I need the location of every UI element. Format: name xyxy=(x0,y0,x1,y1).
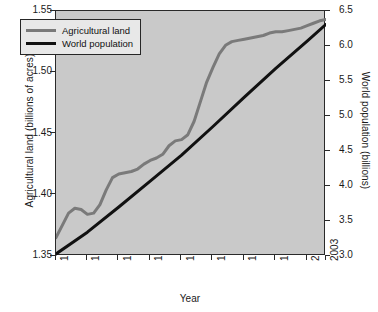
y-right-tick-mark xyxy=(325,255,330,256)
y-left-tick-mark xyxy=(50,71,55,72)
y-right-tick-label: 5.0 xyxy=(339,109,369,120)
y-left-tick-mark xyxy=(50,10,55,11)
legend-label-agricultural-land: Agricultural land xyxy=(62,25,130,36)
y-right-tick-mark xyxy=(325,115,330,116)
legend-item-agricultural-land: Agricultural land xyxy=(26,24,133,37)
x-tick-mark xyxy=(149,255,150,260)
y-right-tick-label: 4.0 xyxy=(339,179,369,190)
x-tick-mark xyxy=(306,255,307,260)
legend-item-world-population: World population xyxy=(26,37,133,50)
y-axis-right-ticks: 3.03.54.04.55.05.56.06.5 xyxy=(329,0,363,312)
y-left-tick-label: 1.55 xyxy=(22,4,52,15)
series-line-world-population xyxy=(56,24,326,254)
chart-figure: Agricultural land (billions of acres) Wo… xyxy=(0,0,378,312)
legend-label-world-population: World population xyxy=(62,38,133,49)
legend-swatch-agricultural-land xyxy=(26,29,56,32)
y-right-tick-mark xyxy=(325,150,330,151)
legend-swatch-world-population xyxy=(26,42,56,45)
x-axis-title: Year xyxy=(55,293,325,304)
y-right-tick-mark xyxy=(325,185,330,186)
x-tick-mark xyxy=(86,255,87,260)
y-right-tick-mark xyxy=(325,45,330,46)
x-tick-mark xyxy=(211,255,212,260)
y-right-tick-label: 3.5 xyxy=(339,214,369,225)
y-left-tick-mark xyxy=(50,193,55,194)
y-right-tick-label: 6.0 xyxy=(339,39,369,50)
x-tick-mark xyxy=(180,255,181,260)
y-right-tick-label: 3.0 xyxy=(339,249,369,260)
y-right-tick-mark xyxy=(325,80,330,81)
y-left-tick-label: 1.45 xyxy=(22,127,52,138)
x-tick-mark xyxy=(274,255,275,260)
y-right-tick-mark xyxy=(325,10,330,11)
y-left-tick-mark xyxy=(50,132,55,133)
x-tick-mark xyxy=(117,255,118,260)
y-right-tick-label: 6.5 xyxy=(339,4,369,15)
y-right-tick-label: 5.5 xyxy=(339,74,369,85)
y-left-tick-label: 1.35 xyxy=(22,249,52,260)
x-tick-mark xyxy=(325,255,326,260)
y-left-tick-label: 1.50 xyxy=(22,65,52,76)
y-right-tick-label: 4.5 xyxy=(339,144,369,155)
x-tick-mark xyxy=(243,255,244,260)
chart-legend: Agricultural land World population xyxy=(20,19,141,55)
x-tick-mark xyxy=(55,255,56,260)
y-right-tick-mark xyxy=(325,220,330,221)
y-left-tick-label: 1.40 xyxy=(22,188,52,199)
